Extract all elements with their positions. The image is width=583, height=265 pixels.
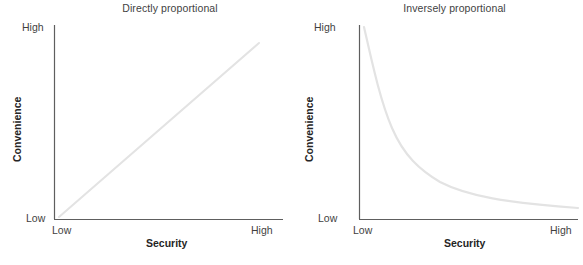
x-tick-high: High — [550, 224, 572, 236]
y-tick-low: Low — [26, 212, 45, 224]
chart-panel-directly-proportional: Directly proportional High Low Low High … — [0, 0, 292, 265]
x-axis-title: Security — [444, 237, 485, 249]
x-tick-high: High — [251, 224, 273, 236]
y-tick-low: Low — [318, 212, 337, 224]
x-axis-title: Security — [146, 237, 187, 249]
x-tick-low: Low — [52, 224, 71, 236]
y-tick-high: High — [314, 21, 336, 33]
data-curve-inverse — [364, 27, 578, 208]
two-panel-figure: Directly proportional High Low Low High … — [0, 0, 583, 265]
data-line-direct — [59, 43, 259, 217]
plot-area-inversely-proportional — [292, 0, 583, 265]
y-axis-title: Convenience — [303, 97, 315, 162]
y-axis-title: Convenience — [11, 97, 23, 162]
plot-area-directly-proportional — [0, 0, 292, 265]
chart-panel-inversely-proportional: Inversely proportional High Low Low High… — [292, 0, 583, 265]
y-tick-high: High — [22, 21, 44, 33]
x-tick-low: Low — [353, 224, 372, 236]
